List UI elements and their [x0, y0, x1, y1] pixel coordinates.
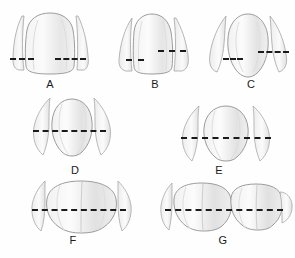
figure-a-label: A	[40, 78, 60, 90]
adjacent-tooth-left	[33, 98, 50, 155]
adjacent-tooth-right	[270, 16, 287, 72]
figure-c-illustration	[200, 8, 295, 78]
tooth-contact-diagram: A B	[0, 0, 295, 258]
figure-f-illustration	[26, 178, 136, 234]
figure-a-contact-dash-left	[10, 58, 34, 60]
figure-b-contact-dash-right	[158, 50, 186, 52]
figure-f	[26, 178, 136, 234]
tooth-crown-second-premolar	[204, 106, 248, 161]
adjacent-tooth-left	[182, 106, 199, 161]
adjacent-tooth-right	[174, 18, 188, 71]
figure-d-contact-dash	[33, 130, 106, 132]
figure-d-label: D	[65, 164, 85, 176]
figure-e-label: E	[209, 164, 229, 176]
adjacent-tooth-right	[76, 16, 88, 70]
figure-c	[200, 8, 295, 78]
adjacent-tooth-left	[13, 16, 24, 70]
tooth-crown-central-incisor	[25, 13, 74, 74]
figure-b-label: B	[145, 78, 165, 90]
figure-c-label: C	[241, 78, 261, 90]
figure-a-illustration	[0, 8, 100, 78]
figure-g-contact-dash	[165, 209, 283, 211]
adjacent-tooth-left	[210, 16, 226, 72]
adjacent-tooth-right	[280, 192, 292, 223]
figure-g-label: G	[213, 234, 233, 246]
figure-e	[175, 104, 280, 164]
figure-b	[106, 8, 201, 78]
figure-g	[158, 180, 295, 234]
figure-f-contact-dash	[32, 209, 126, 211]
tooth-crown-canine	[228, 14, 268, 77]
figure-f-label: F	[63, 234, 83, 246]
figure-a-contact-dash-right	[55, 58, 86, 60]
figure-b-contact-dash-left	[126, 59, 144, 61]
figure-d	[28, 96, 118, 158]
adjacent-tooth-left	[119, 18, 132, 71]
figure-e-illustration	[175, 104, 280, 164]
adjacent-tooth-right	[253, 106, 270, 161]
adjacent-tooth-right	[118, 181, 131, 231]
figure-c-contact-dash-right	[258, 51, 289, 53]
adjacent-tooth-left	[161, 183, 172, 230]
figure-d-illustration	[28, 96, 118, 158]
adjacent-tooth-left	[32, 181, 45, 231]
figure-c-contact-dash-left	[223, 58, 243, 60]
figure-a	[0, 8, 100, 78]
figure-b-illustration	[106, 8, 201, 78]
figure-e-contact-dash	[181, 137, 271, 139]
figure-g-illustration	[158, 180, 295, 234]
adjacent-tooth-right	[94, 98, 111, 155]
